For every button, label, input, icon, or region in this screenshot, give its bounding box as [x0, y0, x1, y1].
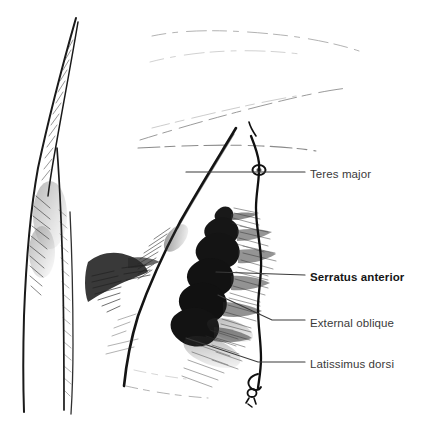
label-latissimus-dorsi: Latissimus dorsi — [310, 359, 394, 371]
label-teres-major: Teres major — [310, 169, 371, 181]
label-serratus-anterior: Serratus anterior — [310, 272, 404, 284]
anatomy-figure: Teres major Serratus anterior External o… — [0, 0, 427, 431]
label-external-oblique: External oblique — [310, 318, 394, 330]
